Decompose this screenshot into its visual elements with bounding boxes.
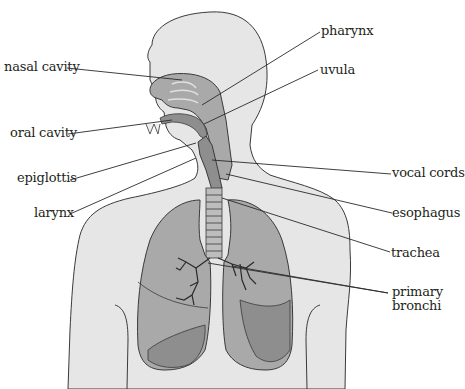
label-primary-bronchi: primary bronchi (392, 285, 443, 313)
teeth (146, 124, 160, 134)
label-pharynx: pharynx (321, 24, 373, 38)
label-oral-cavity: oral cavity (10, 126, 77, 140)
trachea-organ (206, 188, 222, 258)
label-uvula: uvula (320, 63, 355, 77)
label-larynx: larynx (34, 206, 74, 220)
label-primary-bronchi-line1: primary (392, 285, 443, 299)
label-primary-bronchi-line2: bronchi (392, 299, 443, 313)
label-vocal-cords: vocal cords (392, 166, 465, 180)
leader-epiglottis (70, 143, 196, 180)
label-nasal-cavity: nasal cavity (4, 60, 80, 74)
label-esophagus: esophagus (392, 206, 460, 220)
label-trachea: trachea (391, 246, 440, 260)
label-epiglottis: epiglottis (17, 171, 77, 185)
